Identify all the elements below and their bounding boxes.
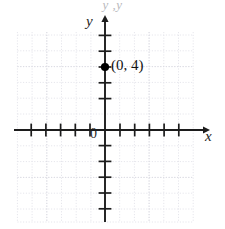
graph-canvas [0, 0, 225, 229]
y-axis-arrowhead [101, 15, 108, 22]
y-axis-label: y [86, 14, 93, 29]
x-axis-label: x [205, 129, 212, 144]
coordinate-plane-figure: y ,y [0, 0, 225, 229]
data-point-0-4 [101, 63, 109, 71]
origin-label: 0 [90, 127, 97, 141]
plot-area: y x 0 (0, 4) [0, 0, 225, 229]
point-coordinate-label: (0, 4) [111, 58, 144, 73]
